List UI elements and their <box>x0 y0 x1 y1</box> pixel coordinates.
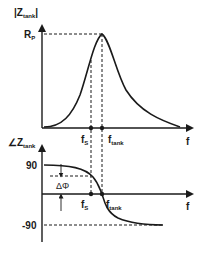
fs-label-bottom: fS <box>81 199 88 211</box>
phase-x-label: f <box>186 201 190 212</box>
phase-plot: ∠Ztank 90 -90 ΔΦ f fS ftank <box>8 137 190 242</box>
ftank-point-bottom <box>100 192 104 196</box>
fs-point-bottom <box>89 192 93 196</box>
fs-label-top: fS <box>81 134 88 146</box>
magnitude-curve <box>44 34 180 127</box>
rp-label: RP <box>24 29 35 41</box>
ftank-point-top <box>100 126 104 130</box>
phase-y-label: ∠Ztank <box>8 137 36 149</box>
ftank-label-top: ftank <box>108 134 124 146</box>
phase-tick-90: 90 <box>26 160 38 171</box>
delta-phi-label: ΔΦ <box>56 181 69 191</box>
phase-tick-minus-90: -90 <box>22 220 37 231</box>
magnitude-y-label: |Ztank| <box>14 7 38 19</box>
magnitude-plot: |Ztank| RP f fS ftank <box>14 7 190 194</box>
ftank-label-bottom: ftank <box>106 199 122 211</box>
tank-response-diagram: |Ztank| RP f fS ftank ∠Ztank 90 -90 ΔΦ f <box>0 0 203 255</box>
magnitude-x-label: f <box>186 136 190 147</box>
fs-point-top <box>89 126 93 130</box>
